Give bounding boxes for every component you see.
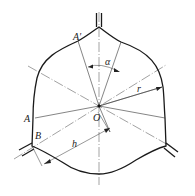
label-b: B	[35, 130, 41, 141]
label-h: h	[72, 138, 77, 149]
label-a-prime: A′	[72, 31, 82, 42]
label-o: O	[93, 112, 100, 123]
center-point	[97, 104, 100, 107]
center-lines	[14, 12, 170, 185]
r-dimension	[99, 87, 162, 106]
alpha-arc	[88, 65, 120, 73]
profile-diagram: A′ A B O α r h	[0, 0, 195, 196]
label-a: A	[23, 113, 31, 124]
label-r: r	[137, 83, 141, 94]
label-alpha: α	[105, 56, 111, 67]
vertex-stubs	[19, 13, 178, 157]
